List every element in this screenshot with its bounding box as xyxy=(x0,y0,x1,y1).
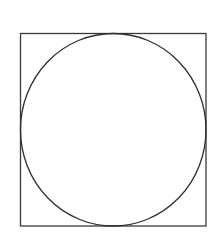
outer-square xyxy=(21,34,207,227)
inscribed-circle-diagram xyxy=(0,0,216,233)
inscribed-circle xyxy=(21,34,207,227)
